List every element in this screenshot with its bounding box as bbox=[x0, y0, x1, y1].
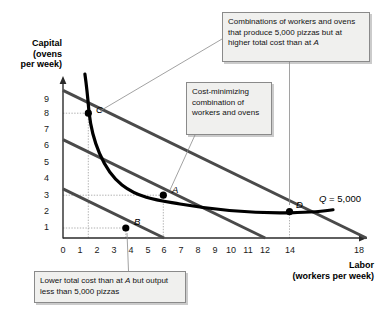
callout-higher-cost-point-ref: A bbox=[313, 38, 318, 47]
x-tick-12: 12 bbox=[258, 245, 272, 255]
y-tick-8: 8 bbox=[37, 108, 49, 118]
callout-lower-cost-pre: Lower total cost than at bbox=[40, 276, 125, 285]
isoquant-isocost-figure: Capital (ovens per week) Labor (workers … bbox=[0, 0, 376, 314]
x-tick-8: 8 bbox=[191, 245, 205, 255]
x-tick-10: 10 bbox=[224, 245, 238, 255]
point-c-label: C bbox=[96, 104, 103, 115]
isocost-line-mid bbox=[63, 140, 265, 238]
y-axis-title: Capital (ovens per week) bbox=[0, 38, 62, 70]
x-tick-9: 9 bbox=[208, 245, 222, 255]
x-tick-2: 2 bbox=[90, 245, 104, 255]
point-d-label: D bbox=[296, 199, 303, 210]
y-tick-2: 2 bbox=[37, 206, 49, 216]
x-tick-3: 3 bbox=[107, 245, 121, 255]
y-tick-4: 4 bbox=[37, 173, 49, 183]
y-axis-arrowhead bbox=[60, 76, 67, 84]
x-tick-6: 6 bbox=[157, 245, 171, 255]
callout-higher-total-cost: Combinations of workers and ovens that p… bbox=[222, 12, 370, 62]
y-tick-7: 7 bbox=[37, 124, 49, 134]
point-b-marker bbox=[122, 224, 129, 231]
point-c-marker bbox=[85, 110, 92, 117]
y-tick-3: 3 bbox=[37, 190, 49, 200]
y-tick-1: 1 bbox=[37, 222, 49, 232]
x-tick-1: 1 bbox=[73, 245, 87, 255]
point-a-marker bbox=[160, 192, 167, 199]
callout-cost-minimizing: Cost-minimizing combination of workers a… bbox=[186, 82, 272, 135]
x-tick-7: 7 bbox=[174, 245, 188, 255]
x-tick-0: 0 bbox=[56, 245, 70, 255]
y-tick-6: 6 bbox=[37, 140, 49, 150]
isoquant-label: Q = 5,000 bbox=[319, 193, 361, 204]
isocost-line-low bbox=[63, 189, 164, 238]
x-tick-5: 5 bbox=[141, 245, 155, 255]
x-tick-4: 4 bbox=[124, 245, 138, 255]
point-b-label: B bbox=[134, 216, 140, 227]
isoquant-q-value: = 5,000 bbox=[326, 193, 361, 204]
callout-higher-cost-text: Combinations of workers and ovens that p… bbox=[228, 17, 355, 47]
callout-lower-total-cost: Lower total cost than at A but output le… bbox=[34, 271, 186, 303]
point-a-label: A bbox=[172, 184, 178, 195]
callout-cost-minimizing-text: Cost-minimizing combination of workers a… bbox=[192, 87, 259, 117]
y-tick-9: 9 bbox=[37, 94, 49, 104]
x-axis-title: Labor (workers per week) bbox=[236, 260, 374, 281]
y-tick-5: 5 bbox=[37, 157, 49, 167]
x-tick-11: 11 bbox=[241, 245, 255, 255]
x-tick-18: 18 bbox=[352, 245, 366, 255]
x-tick-14: 14 bbox=[283, 245, 297, 255]
point-d-marker bbox=[286, 208, 293, 215]
